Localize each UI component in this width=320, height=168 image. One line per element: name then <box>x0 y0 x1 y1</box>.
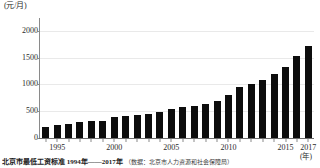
caption-source: （数据：北京市人力资源和社会保障局） <box>125 159 233 165</box>
bar-slot <box>257 20 268 138</box>
x-axis-tick-mark <box>217 139 218 142</box>
bar-slot <box>40 20 51 138</box>
bar-slot <box>154 20 165 138</box>
bar-slot <box>166 20 177 138</box>
bar <box>42 127 49 138</box>
x-axis-tick-mark <box>125 139 126 142</box>
x-axis-tick-label: 1995 <box>49 143 65 152</box>
bar-slot <box>131 20 142 138</box>
x-tick-slot <box>143 139 154 142</box>
bar-slot <box>143 20 154 138</box>
x-tick-slot <box>257 139 268 142</box>
x-tick-slot <box>234 139 245 142</box>
x-tick-slot <box>211 139 222 142</box>
x-axis-tick-mark <box>159 139 160 142</box>
y-axis-tick-label: 500 <box>2 107 38 115</box>
x-tick-slot <box>86 139 97 142</box>
x-tick-slot <box>177 139 188 142</box>
x-axis-tick-mark <box>262 139 263 142</box>
y-axis-tick-label: 2000 <box>2 27 38 35</box>
bar <box>88 121 95 138</box>
x-axis-tick-mark <box>79 139 80 142</box>
x-tick-slot <box>154 139 165 142</box>
figure-caption: 北京市最低工资标准 1994年——2017年 （数据：北京市人力资源和社会保障局… <box>2 158 318 167</box>
x-axis-tick-mark <box>285 139 286 142</box>
x-axis-tick-mark <box>308 139 309 142</box>
bar <box>282 67 289 138</box>
x-axis-tick-mark <box>205 139 206 142</box>
bar <box>259 80 266 138</box>
bar-slot <box>246 20 257 138</box>
x-axis-tick-mark <box>57 139 58 142</box>
bar-slot <box>303 20 314 138</box>
x-tick-slot <box>40 139 51 142</box>
bar-slot <box>280 20 291 138</box>
bar <box>248 84 255 138</box>
bar-slot <box>291 20 302 138</box>
plot-area <box>40 20 314 138</box>
bar <box>179 107 186 138</box>
bar-slot <box>109 20 120 138</box>
x-axis-tick-mark <box>274 139 275 142</box>
x-tick-slot <box>131 139 142 142</box>
bar <box>145 114 152 138</box>
bar <box>134 115 141 138</box>
x-axis-tick-label: 2005 <box>163 143 179 152</box>
y-axis-tick-label: 1000 <box>2 80 38 88</box>
y-axis-tick-labels: 0500100015002000 <box>0 0 38 168</box>
bar-slot <box>268 20 279 138</box>
bar <box>214 101 221 138</box>
x-tick-slot <box>303 139 314 142</box>
x-tick-slot <box>51 139 62 142</box>
x-axis-tick-mark <box>102 139 103 142</box>
bar-slot <box>74 20 85 138</box>
x-axis-tick-mark <box>91 139 92 142</box>
x-tick-slot <box>291 139 302 142</box>
x-axis-tick-mark <box>137 139 138 142</box>
x-axis-tick-mark <box>114 139 115 142</box>
bar-slot <box>188 20 199 138</box>
bar <box>99 121 106 138</box>
bar <box>76 122 83 138</box>
x-axis-tick-label: 2015 <box>277 143 293 152</box>
x-axis-tick-mark <box>194 139 195 142</box>
bar <box>236 87 243 138</box>
x-tick-slot <box>109 139 120 142</box>
x-axis-tick-mark <box>148 139 149 142</box>
bar-slot <box>177 20 188 138</box>
bar-slot <box>211 20 222 138</box>
x-axis-tick-mark <box>251 139 252 142</box>
chart-figure: (元/月) 0500100015002000 19952000200520102… <box>0 0 320 168</box>
x-axis-tick-marks <box>40 139 314 142</box>
x-tick-slot <box>246 139 257 142</box>
bar-slot <box>120 20 131 138</box>
x-tick-slot <box>223 139 234 142</box>
x-tick-slot <box>97 139 108 142</box>
bar-slot <box>234 20 245 138</box>
y-axis-tick-label: 1500 <box>2 54 38 62</box>
bar-slot <box>200 20 211 138</box>
bar <box>293 56 300 138</box>
bar-slot <box>223 20 234 138</box>
x-axis-tick-label: 2000 <box>106 143 122 152</box>
x-tick-slot <box>63 139 74 142</box>
bar-slot <box>51 20 62 138</box>
y-axis-tick-label: 0 <box>2 134 38 142</box>
x-axis-tick-mark <box>182 139 183 142</box>
x-tick-slot <box>200 139 211 142</box>
x-tick-slot <box>74 139 85 142</box>
x-axis-tick-mark <box>45 139 46 142</box>
x-axis-tick-mark <box>296 139 297 142</box>
x-axis-tick-label: 2017 <box>300 143 316 152</box>
x-tick-slot <box>120 139 131 142</box>
bar <box>225 95 232 138</box>
bar <box>168 109 175 138</box>
bar <box>191 106 198 138</box>
x-axis-tick-mark <box>68 139 69 142</box>
bar <box>305 46 312 138</box>
x-axis-tick-mark <box>239 139 240 142</box>
bar-slot <box>97 20 108 138</box>
x-tick-slot <box>166 139 177 142</box>
bar <box>54 125 61 138</box>
bar <box>202 104 209 138</box>
